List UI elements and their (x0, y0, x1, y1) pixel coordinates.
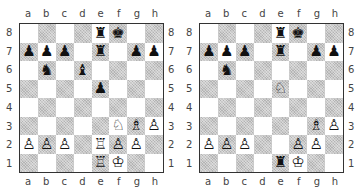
square-e5: ♟ (92, 80, 110, 99)
black-pawn-icon: ♟ (238, 44, 251, 59)
square-e2 (272, 135, 290, 154)
rank-label: 3 (6, 117, 12, 136)
square-h6 (145, 61, 163, 80)
rank-label: 1 (6, 154, 12, 173)
black-pawn-icon: ♟ (94, 81, 107, 96)
black-king-icon: ♚ (112, 26, 125, 41)
file-label: e (92, 8, 110, 19)
file-label: d (73, 176, 91, 187)
file-labels-top: abcdefgh (199, 8, 344, 19)
rank-label: 5 (186, 79, 192, 98)
square-a1 (200, 154, 218, 173)
square-h5 (145, 80, 163, 99)
file-label: h (326, 176, 344, 187)
square-f7 (289, 43, 307, 62)
file-label: c (55, 176, 73, 187)
white-pawn-icon: ♙ (202, 137, 215, 152)
rank-labels-left: 87654321 (186, 23, 192, 173)
square-h4 (325, 98, 343, 117)
black-pawn-icon: ♟ (40, 44, 53, 59)
square-b6: ♞ (38, 61, 56, 80)
rank-labels-left: 87654321 (6, 23, 12, 173)
square-f3 (289, 117, 307, 136)
rank-label: 6 (348, 61, 354, 80)
square-d8 (74, 24, 92, 43)
white-knight-icon: ♘ (112, 118, 125, 133)
square-a1 (20, 154, 38, 173)
file-label: a (199, 176, 217, 187)
white-pawn-icon: ♙ (58, 137, 71, 152)
black-pawn-icon: ♟ (202, 44, 215, 59)
square-e7: ♜ (272, 43, 290, 62)
square-e7: ♜ (92, 43, 110, 62)
square-a2: ♙ (20, 135, 38, 154)
square-b1 (218, 154, 236, 173)
white-bishop-icon: ♗ (129, 118, 142, 133)
file-label: h (326, 8, 344, 19)
rank-label: 2 (168, 136, 174, 155)
white-knight-icon: ♘ (274, 81, 287, 96)
rank-label: 7 (168, 42, 174, 61)
white-king-icon: ♔ (292, 155, 305, 170)
square-b8 (218, 24, 236, 43)
square-h7: ♟ (145, 43, 163, 62)
white-pawn-icon: ♙ (238, 137, 251, 152)
square-a6 (20, 61, 38, 80)
square-e3 (92, 117, 110, 136)
square-a7: ♟ (20, 43, 38, 62)
rank-label: 6 (6, 61, 12, 80)
black-pawn-icon: ♟ (327, 44, 340, 59)
square-d6: ♝ (74, 61, 92, 80)
square-f3: ♘ (109, 117, 127, 136)
file-labels-bottom: abcdefgh (199, 176, 344, 187)
file-label: e (272, 176, 290, 187)
black-pawn-icon: ♟ (220, 44, 233, 59)
white-pawn-icon: ♙ (22, 137, 35, 152)
rank-label: 6 (168, 61, 174, 80)
file-label: d (73, 8, 91, 19)
rank-label: 4 (186, 98, 192, 117)
square-g6 (307, 61, 325, 80)
square-f8: ♚ (289, 24, 307, 43)
file-label: a (19, 176, 37, 187)
file-labels-bottom: abcdefgh (19, 176, 164, 187)
black-rook-icon: ♜ (274, 26, 287, 41)
square-c6 (56, 61, 74, 80)
square-g8 (127, 24, 145, 43)
black-pawn-icon: ♟ (129, 44, 142, 59)
square-g4 (307, 98, 325, 117)
white-pawn-icon: ♙ (112, 137, 125, 152)
square-c8 (56, 24, 74, 43)
file-label: f (110, 8, 128, 19)
square-h7: ♟ (325, 43, 343, 62)
square-f1: ♔ (289, 154, 307, 173)
rank-label: 6 (186, 61, 192, 80)
square-d5 (74, 80, 92, 99)
rank-label: 7 (348, 42, 354, 61)
rank-label: 2 (348, 136, 354, 155)
square-e5: ♘ (272, 80, 290, 99)
rank-label: 3 (348, 117, 354, 136)
square-a5 (200, 80, 218, 99)
square-d6 (254, 61, 272, 80)
rank-label: 7 (186, 42, 192, 61)
rank-labels-right: 87654321 (348, 23, 354, 173)
black-rook-icon: ♜ (94, 26, 107, 41)
file-label: b (217, 8, 235, 19)
square-h5 (325, 80, 343, 99)
square-f6 (109, 61, 127, 80)
square-b1 (38, 154, 56, 173)
square-c7: ♟ (236, 43, 254, 62)
black-pawn-icon: ♟ (147, 44, 160, 59)
square-f2: ♙ (109, 135, 127, 154)
square-e1: ♖ (92, 154, 110, 173)
chess-board: ♜♚♟♟♟♜♟♟♞♘♗♙♙♙♙♙♙♜♔ (199, 23, 344, 173)
rank-label: 3 (186, 117, 192, 136)
square-b7: ♟ (38, 43, 56, 62)
square-c3 (56, 117, 74, 136)
file-label: h (146, 176, 164, 187)
square-e6 (92, 61, 110, 80)
square-f2: ♙ (289, 135, 307, 154)
rank-label: 5 (6, 79, 12, 98)
square-c5 (56, 80, 74, 99)
